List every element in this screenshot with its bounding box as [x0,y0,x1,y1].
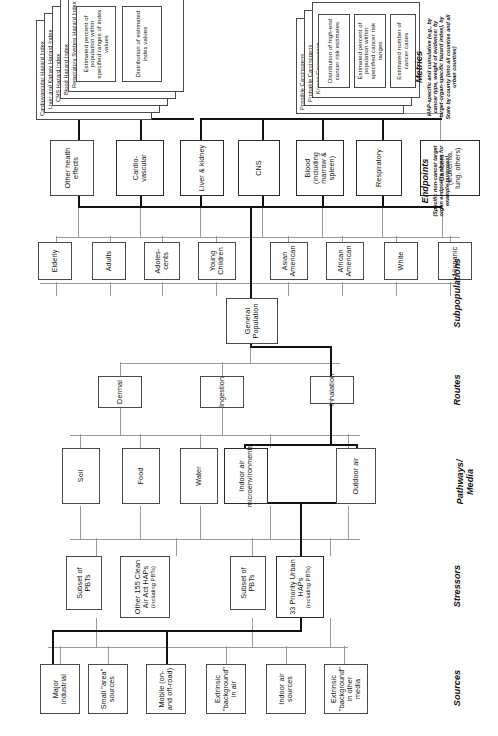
highlight-path [250,346,332,348]
connector [450,282,451,296]
endpoint-label: Liver & kidney [198,145,206,192]
source-label: Small "area" sources [100,667,116,711]
source-box[interactable]: Extrinsic "background" in other media [324,664,368,714]
connector [108,646,109,664]
pathway-box[interactable]: Indoor air microenvironments [224,448,268,504]
metrics-cancer-output-label: Estimated percent of population within s… [357,17,384,85]
route-box[interactable]: Inhalation [310,376,354,404]
metrics-cancer-output-box[interactable]: Estimated number of cancer cases [390,14,416,88]
connector [288,282,289,296]
subpopulation-label: White [397,252,405,271]
pathway-box[interactable]: Food [122,448,160,504]
connector [80,434,81,448]
endpoint-box[interactable]: Respiratory [356,140,402,196]
metrics-cancer-output-box[interactable]: Distribution of high-end cancer risk est… [318,14,350,88]
highlight-path [78,206,442,208]
subpopulation-box[interactable]: White [384,242,418,280]
connector [78,208,79,238]
source-box[interactable]: Small "area" sources [88,664,128,714]
subpopulation-box[interactable]: Young Children [198,242,236,280]
metrics-hazard-output-label: Estimated percent of population within s… [83,9,110,79]
connector [162,282,163,296]
highlight-path [322,118,324,140]
subpopulation-label: Asian American [281,245,297,277]
connector [120,408,121,436]
connector [70,539,360,540]
highlight-path [300,504,302,556]
subpopulation-label: Adoles- cents [154,245,170,277]
subpopulation-label: African American [337,245,353,277]
endpoint-box[interactable]: Liver & kidney [180,140,224,196]
connector [382,208,383,238]
subpopulation-label: Elderly [51,250,59,273]
subpopulation-box[interactable]: African American [326,242,364,280]
highlight-path [200,118,202,140]
connector [270,506,271,540]
row-caption-note: (Specific non-cancer target organ endpoi… [432,138,451,224]
stressor-sublabel: (including PBTs) [305,566,311,608]
diagram-stage: Major industrial Small "area" sources Mo… [0,0,498,736]
subpopulation-box[interactable]: Adoles- cents [144,242,180,280]
endpoint-label: Blood (including marrow & spleen) [304,143,336,193]
subpopulation-label: Young Children [209,245,225,277]
connector [120,363,340,364]
endpoint-box[interactable]: Cardio- vascular [116,140,164,196]
metrics-hazard-output-box[interactable]: Distribution of estimated index values [122,6,162,82]
general-population-box[interactable]: General Population [226,298,278,344]
connector [110,282,111,296]
connector [120,362,121,376]
stressor-box[interactable]: Subset of PBTs [230,556,266,610]
subpopulation-box[interactable]: Adults [92,242,126,280]
connector [200,434,201,448]
endpoint-box[interactable]: CNS [238,140,280,196]
connector [348,506,349,540]
stressor-label: Other 155 Clean Air Act HAPs [134,559,150,615]
connector [56,282,57,296]
connector [226,646,227,664]
route-box[interactable]: Ingestion [200,376,244,408]
connector [216,282,217,296]
highlight-path [330,346,332,376]
subpopulation-box[interactable]: Elderly [38,242,72,280]
route-label: Ingestion [218,377,226,407]
stressor-label: Subset of PBTs [76,559,92,607]
pathway-label: Water [195,466,203,485]
pathway-box[interactable]: Water [180,448,218,504]
highlight-path [330,404,332,446]
metrics-cancer-output-label: Distribution of high-end cancer risk est… [327,17,340,85]
source-box[interactable]: Major industrial [40,664,80,714]
pathway-label: Outdoor air [352,457,360,494]
source-label: Extrinsic "background" in air [214,667,238,711]
row-caption-label: Subpopulations [452,258,462,327]
connector [330,618,331,648]
connector [330,538,331,556]
source-box[interactable]: Extrinsic "background" in air [206,664,246,714]
source-box[interactable]: Indoor air sources [266,664,306,714]
row-caption-routes: Routes [452,350,463,430]
connector [56,237,460,238]
stressor-box[interactable]: Other 155 Clean Air Act HAPs (including … [120,556,170,618]
subpopulation-box[interactable]: Asian American [270,242,308,280]
connector [140,434,141,448]
connector [252,618,253,648]
source-box[interactable]: Mobile (on- and off-road) [146,664,186,714]
connector [176,538,177,556]
connector [250,346,251,364]
connector [80,506,81,540]
endpoint-box[interactable]: Other health effects [50,140,94,196]
stressor-box[interactable]: 33 Priority Urban HAPs (including PBTs) [276,556,324,618]
stressor-box[interactable]: Subset of PBTs [66,556,102,610]
route-label: Dermal [116,380,124,404]
endpoint-box[interactable]: Blood (including marrow & spleen) [296,140,344,196]
source-label: Mobile (on- and off-road) [158,667,174,711]
metrics-hazard-output-box[interactable]: Estimated percent of population within s… [76,6,116,82]
connector [344,646,345,664]
endpoint-label: Cardio- vascular [132,143,148,193]
metrics-cancer-output-box[interactable]: Estimated percent of population within s… [354,14,386,88]
route-box[interactable]: Dermal [98,376,142,408]
pathway-box[interactable]: Outdoor air [336,448,376,504]
connector [96,618,97,648]
row-caption-label: Stressors [452,565,462,607]
row-caption-subpopulations: Subpopulations [452,238,463,348]
pathway-box[interactable]: Soil [62,448,100,504]
